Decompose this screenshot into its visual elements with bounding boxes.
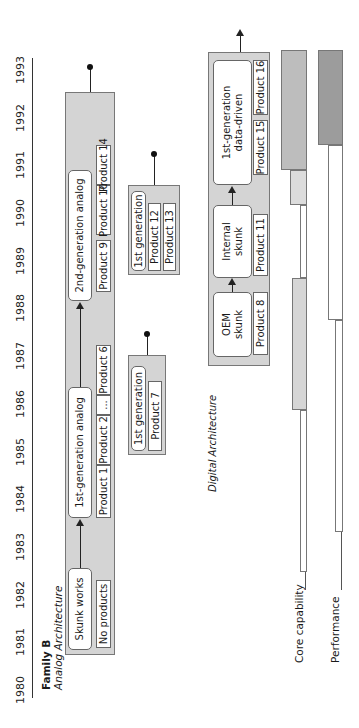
core-capability-label: Core capability — [293, 584, 305, 663]
core-baseline — [305, 570, 306, 590]
connector-line — [232, 285, 233, 292]
year-label: 1992 — [14, 98, 27, 138]
stage-oem-skunk: OEMskunk — [213, 292, 252, 357]
stage-label-line: skunk — [233, 227, 244, 256]
stage-label-line: Internal — [221, 222, 232, 261]
continuation-line — [154, 155, 155, 185]
year-label: 1990 — [14, 193, 27, 233]
core-capability-bar — [290, 170, 307, 205]
core-capability-bar — [292, 278, 307, 410]
core-capability-bar — [281, 50, 307, 170]
continuation-line — [240, 36, 241, 52]
continuation-line — [147, 335, 148, 355]
year-label: 1989 — [14, 241, 27, 281]
core-capability-bar — [300, 410, 307, 572]
arrow-right-icon — [228, 278, 236, 285]
end-dot-icon — [151, 151, 157, 157]
year-label: 1991 — [14, 145, 27, 185]
product-box: Product 9 — [96, 240, 111, 292]
product-box: No products — [96, 580, 111, 648]
arrow-right-icon — [228, 186, 236, 193]
stage-2nd-generation-analog: 2nd-generation analog — [68, 170, 92, 301]
performance-bar — [335, 320, 343, 532]
stage-internal-skunk: Internalskunk — [213, 205, 252, 278]
connector-line — [80, 309, 81, 387]
year-label: 1982 — [14, 575, 27, 615]
family-subtitle: Analog Architecture — [52, 586, 64, 690]
year-label: 1983 — [14, 527, 27, 567]
year-label: 1985 — [14, 432, 27, 472]
arrow-right-icon — [76, 302, 84, 309]
oem-stage-1st-generation: 1st generation — [131, 366, 146, 451]
arrow-right-icon — [76, 519, 84, 526]
product-box: Product 14 — [96, 145, 111, 185]
product-box: Product 10 — [96, 185, 111, 235]
year-label: 1981 — [14, 622, 27, 662]
timeline-axis-line — [32, 58, 33, 698]
continuation-line — [90, 68, 91, 92]
product-box: Product 8 — [253, 292, 268, 355]
product-box: Product 1 — [96, 465, 111, 518]
product-box: Product 12 — [148, 203, 161, 271]
performance-bar — [318, 50, 343, 145]
stage-label-line: data-driven — [233, 94, 244, 152]
product-box: Product 15 — [253, 120, 268, 175]
product-box: Product 13 — [163, 203, 176, 271]
year-label: 1993 — [14, 50, 27, 90]
year-label: 1986 — [14, 384, 27, 424]
core-capability-bar — [300, 205, 307, 278]
product-box: Product 6 — [96, 345, 111, 395]
stage-label-line: skunk — [233, 310, 244, 339]
product-box: Product 16 — [253, 60, 268, 115]
performance-label: Performance — [329, 596, 341, 663]
family-title: Family B — [40, 640, 52, 690]
connector-line — [80, 526, 81, 568]
family-b-architecture-timeline-diagram: 1980 1981 1982 1983 1984 1985 1986 1987 … — [0, 0, 359, 728]
product-box-ellipsis: ... — [96, 395, 111, 415]
stage-label-line: 1st-generation — [221, 86, 232, 160]
end-dot-icon — [144, 331, 150, 337]
product-box: Product 7 — [148, 381, 162, 451]
arrow-right-icon — [236, 29, 244, 36]
year-label: 1987 — [14, 336, 27, 376]
performance-baseline — [341, 530, 342, 590]
family-heading: Family B Analog Architecture — [40, 586, 64, 690]
year-label: 1980 — [14, 670, 27, 710]
stage-label-line: OEM — [221, 313, 232, 336]
connector-line — [232, 193, 233, 205]
end-dot-icon — [87, 64, 93, 70]
year-label: 1988 — [14, 288, 27, 328]
stage-1st-generation-analog: 1st-generation analog — [68, 387, 92, 518]
product-box: Product 11 — [253, 214, 268, 276]
year-label: 1984 — [14, 479, 27, 519]
stage-skunk-works: Skunk works — [68, 568, 92, 650]
oem-stage-1st-generation: 1st generation — [131, 191, 146, 271]
performance-bar — [328, 145, 343, 320]
product-box: Product 2 — [96, 415, 111, 465]
stage-1st-generation-data-driven: 1st-generationdata-driven — [213, 60, 252, 185]
digital-architecture-label: Digital Architecture — [207, 395, 218, 492]
